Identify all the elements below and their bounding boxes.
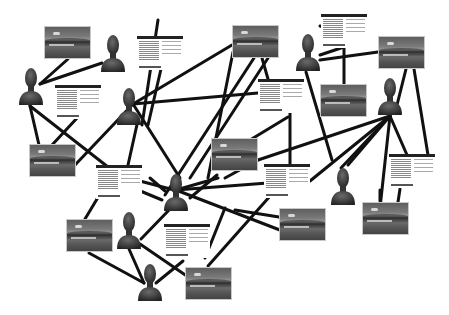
document-header-bar: [321, 14, 367, 17]
cloud-shape: [329, 90, 336, 93]
cloud-shape: [194, 273, 201, 276]
document-card[interactable]: [264, 164, 310, 198]
person-icon[interactable]: [116, 210, 142, 250]
person-icon[interactable]: [137, 262, 163, 302]
document-header-bar: [164, 224, 210, 227]
hill-shape: [233, 37, 278, 42]
person-icon[interactable]: [100, 33, 126, 73]
document-footer-bar: [166, 254, 188, 256]
lake-strip: [367, 220, 392, 222]
landscape-photo-thumbnail[interactable]: [44, 26, 91, 59]
landscape-photo-thumbnail[interactable]: [211, 138, 258, 171]
landscape-photo-thumbnail[interactable]: [29, 144, 76, 177]
document-field-list: [162, 41, 181, 57]
document-text-lines: [166, 229, 186, 249]
document-text-lines: [323, 19, 343, 39]
lake-strip: [190, 285, 215, 287]
hill-shape: [186, 279, 231, 284]
document-footer-bar: [260, 109, 282, 111]
document-text-lines: [266, 169, 286, 189]
connection-edge: [414, 69, 428, 155]
lake-strip: [284, 226, 309, 228]
hill-shape: [379, 48, 424, 53]
landscape-photo-thumbnail[interactable]: [185, 267, 232, 300]
landscape-photo-thumbnail[interactable]: [66, 219, 113, 252]
hill-shape: [321, 96, 366, 101]
lake-strip: [71, 237, 96, 239]
document-card[interactable]: [96, 165, 142, 199]
document-card[interactable]: [389, 154, 435, 188]
connection-edge: [320, 47, 344, 55]
document-header-bar: [55, 85, 101, 88]
document-footer-bar: [98, 195, 120, 197]
landscape-photo-thumbnail[interactable]: [362, 202, 409, 235]
lake-strip: [237, 43, 262, 45]
cloud-shape: [53, 32, 60, 35]
cloud-shape: [387, 42, 394, 45]
document-field-list: [289, 169, 308, 185]
network-diagram: [0, 0, 449, 315]
person-icon[interactable]: [295, 32, 321, 72]
document-card[interactable]: [55, 85, 101, 119]
document-text-lines: [98, 170, 118, 190]
cloud-shape: [288, 214, 295, 217]
person-icon[interactable]: [116, 86, 142, 126]
document-field-list: [414, 159, 433, 175]
document-field-list: [283, 84, 302, 100]
hill-shape: [280, 220, 325, 225]
cloud-shape: [75, 225, 82, 228]
lake-strip: [383, 54, 408, 56]
document-text-lines: [139, 41, 159, 61]
person-icon[interactable]: [330, 166, 356, 206]
document-card[interactable]: [321, 14, 367, 48]
person-icon[interactable]: [18, 66, 44, 106]
cloud-shape: [371, 208, 378, 211]
hill-shape: [30, 156, 75, 161]
document-text-lines: [391, 159, 411, 179]
document-field-list: [189, 229, 208, 245]
connection-edge: [128, 120, 138, 165]
hill-shape: [67, 231, 112, 236]
document-field-list: [121, 170, 140, 186]
document-footer-bar: [266, 194, 288, 196]
landscape-photo-thumbnail[interactable]: [378, 36, 425, 69]
document-header-bar: [389, 154, 435, 157]
document-card[interactable]: [258, 79, 304, 113]
person-icon[interactable]: [163, 172, 189, 212]
cloud-shape: [220, 144, 227, 147]
document-field-list: [80, 90, 99, 106]
landscape-photo-thumbnail[interactable]: [279, 208, 326, 241]
document-footer-bar: [391, 184, 413, 186]
document-text-lines: [57, 90, 77, 110]
document-header-bar: [258, 79, 304, 82]
hill-shape: [212, 150, 257, 155]
landscape-photo-thumbnail[interactable]: [320, 84, 367, 117]
document-field-list: [346, 19, 365, 35]
lake-strip: [216, 156, 241, 158]
document-footer-bar: [139, 66, 161, 68]
connection-edge: [390, 116, 407, 155]
document-footer-bar: [323, 44, 345, 46]
document-footer-bar: [57, 115, 79, 117]
hill-shape: [363, 214, 408, 219]
cloud-shape: [38, 150, 45, 153]
lake-strip: [49, 44, 74, 46]
lake-strip: [325, 102, 350, 104]
document-header-bar: [137, 36, 183, 39]
landscape-photo-thumbnail[interactable]: [232, 25, 279, 58]
hill-shape: [45, 38, 90, 43]
document-text-lines: [260, 84, 280, 104]
person-icon[interactable]: [377, 76, 403, 116]
connection-edge: [398, 189, 400, 202]
document-card[interactable]: [164, 224, 210, 258]
connection-edge: [250, 117, 288, 140]
cloud-shape: [241, 31, 248, 34]
document-header-bar: [264, 164, 310, 167]
document-header-bar: [96, 165, 142, 168]
lake-strip: [34, 162, 59, 164]
connection-edge: [40, 63, 102, 84]
document-card[interactable]: [137, 36, 183, 70]
